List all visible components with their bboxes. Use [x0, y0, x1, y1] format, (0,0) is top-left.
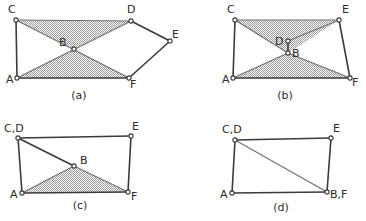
vertex-label-c-CD: C,D — [4, 122, 24, 135]
joint-a-D — [129, 19, 133, 23]
vertex-label-a-E: E — [172, 28, 179, 41]
joint-c-B — [72, 164, 76, 168]
vertex-label-c-B: B — [80, 154, 88, 167]
shaded-region-b-0 — [235, 20, 339, 53]
link-d-CD-E — [235, 138, 331, 140]
vertex-label-c-A: A — [10, 188, 18, 201]
link-a-D-E — [131, 21, 170, 41]
link-a-E-F — [129, 41, 170, 78]
vertex-label-a-D: D — [127, 3, 135, 16]
thin-link-d-CD-BF — [235, 140, 327, 192]
joint-d-CD — [233, 138, 237, 142]
vertex-label-b-E: E — [342, 3, 349, 16]
joint-a-A — [15, 76, 19, 80]
panel-b: ABCDEF(b) — [222, 3, 358, 102]
link-a-C-A — [16, 20, 17, 78]
panel-caption-d: (d) — [273, 201, 289, 214]
link-c-CD-B — [18, 138, 74, 166]
shaded-region-a-0 — [16, 20, 131, 49]
joint-d-BF — [325, 190, 329, 194]
vertex-label-d-A: A — [220, 188, 228, 201]
joint-b-A — [231, 76, 235, 80]
panel-caption-b: (b) — [277, 89, 293, 102]
joint-b-C — [233, 18, 237, 22]
vertex-label-d-CD: C,D — [222, 123, 242, 136]
link-b-E-F — [339, 20, 350, 78]
vertex-label-b-D: D — [275, 35, 283, 48]
panel-caption-a: (a) — [71, 89, 86, 102]
vertex-label-b-F: F — [352, 76, 358, 89]
linkage-figure: ABCDEF(a)ABCDEF(b)ABC,DEF(c)AC,DEB,F(d) — [0, 0, 366, 221]
joint-d-A — [230, 191, 234, 195]
link-c-E-F — [128, 136, 131, 192]
vertex-label-a-F: F — [130, 78, 136, 91]
joint-b-D — [286, 39, 290, 43]
vertex-label-b-C: C — [227, 3, 235, 16]
vertex-label-c-E: E — [132, 120, 139, 133]
panel-a: ABCDEF(a) — [6, 3, 179, 102]
vertex-label-c-F: F — [131, 190, 137, 203]
joint-d-E — [329, 136, 333, 140]
panel-c: ABC,DEF(c) — [4, 120, 139, 212]
link-c-CD-A — [18, 138, 22, 193]
vertex-label-d-BF: B,F — [330, 188, 347, 201]
panels-group: ABCDEF(a)ABCDEF(b)ABC,DEF(c)AC,DEB,F(d) — [4, 3, 358, 214]
link-c-CD-E — [18, 136, 131, 138]
joint-b-B — [286, 51, 290, 55]
figure-container: ABCDEF(a)ABCDEF(b)ABC,DEF(c)AC,DEB,F(d) — [0, 0, 366, 221]
joint-b-E — [337, 18, 341, 22]
joint-c-E — [129, 134, 133, 138]
vertex-label-a-C: C — [8, 3, 16, 16]
link-d-E-BF — [327, 138, 331, 192]
panel-caption-c: (c) — [73, 199, 88, 212]
link-d-CD-A — [232, 140, 235, 193]
joint-c-F — [126, 190, 130, 194]
joint-c-A — [20, 191, 24, 195]
joint-c-CD — [16, 136, 20, 140]
vertex-label-a-B: B — [59, 36, 67, 49]
shaded-region-a-1 — [17, 49, 129, 78]
panel-d: AC,DEB,F(d) — [220, 122, 347, 214]
shaded-region-c-0 — [22, 166, 128, 193]
vertex-label-a-A: A — [6, 73, 14, 86]
joint-a-B — [72, 47, 76, 51]
link-c-A-F — [22, 192, 128, 193]
vertex-label-d-E: E — [333, 122, 340, 135]
vertex-label-b-B: B — [292, 47, 300, 60]
link-b-C-A — [233, 20, 235, 78]
link-d-A-BF — [232, 192, 327, 193]
joint-a-C — [14, 18, 18, 22]
vertex-label-b-A: A — [222, 73, 230, 86]
